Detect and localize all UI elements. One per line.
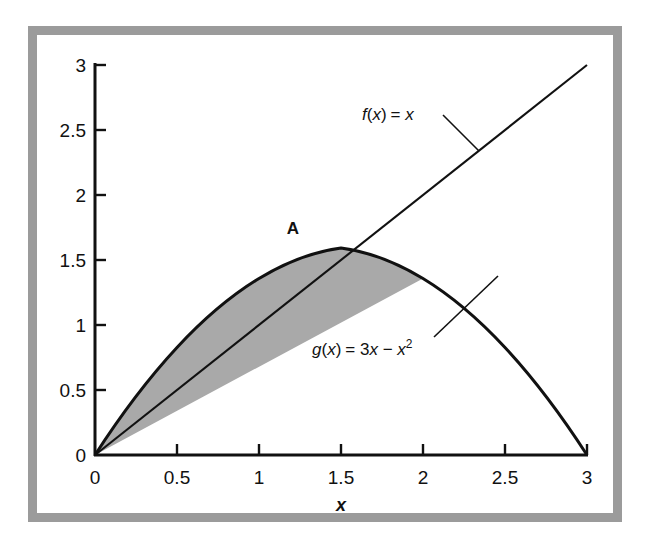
f-label-rhs: x — [404, 105, 414, 124]
f-label-paren-close: ) — [381, 105, 387, 124]
g-label-variable-3: x — [396, 340, 406, 359]
x-tick-label-0.5: 0.5 — [164, 467, 190, 488]
x-tick-label-2.5: 2.5 — [492, 467, 518, 488]
f-label-equals: = — [391, 105, 406, 124]
f-label-leader-line — [443, 115, 479, 151]
x-tick-label-2: 2 — [418, 467, 429, 488]
y-tick-label-2.5: 2.5 — [60, 120, 86, 141]
svg-text:g(x)= 3x − x2: g(x)= 3x − x2 — [312, 337, 413, 359]
g-label-equals: = 3 — [345, 340, 369, 359]
figure-page: 3 2.5 2 1.5 1 0.5 0 0 0.5 1 1.5 2 2.5 3 … — [0, 0, 649, 548]
g-label-paren-close: ) — [336, 340, 342, 359]
y-tick-label-1: 1 — [75, 315, 86, 336]
y-tick-label-3: 3 — [75, 55, 86, 76]
f-label-variable: x — [371, 105, 381, 124]
curve-f-of-x — [95, 65, 587, 455]
y-tick-label-0.5: 0.5 — [60, 380, 86, 401]
g-label-leader-line — [434, 276, 498, 337]
y-tick-label-2: 2 — [75, 185, 86, 206]
svg-text:f(x)= x: f(x)= x — [362, 105, 414, 124]
g-label-minus: − — [378, 340, 397, 359]
g-label-variable: x — [326, 340, 336, 359]
g-label-variable-2: x — [368, 340, 378, 359]
plot-canvas: 3 2.5 2 1.5 1 0.5 0 0 0.5 1 1.5 2 2.5 3 … — [0, 0, 649, 548]
x-axis-ticks — [177, 444, 587, 455]
x-tick-label-3: 3 — [582, 467, 593, 488]
g-label-exponent: 2 — [406, 337, 413, 351]
y-tick-label-0: 0 — [75, 445, 86, 466]
x-tick-label-0: 0 — [90, 467, 101, 488]
region-label-A: A — [287, 219, 299, 238]
x-tick-label-1: 1 — [254, 467, 265, 488]
x-tick-label-1.5: 1.5 — [328, 467, 354, 488]
y-axis-ticks — [95, 65, 106, 390]
x-axis-title: x — [335, 495, 347, 515]
y-tick-label-1.5: 1.5 — [60, 250, 86, 271]
annotation-f-of-x: f(x)= x — [362, 105, 479, 151]
